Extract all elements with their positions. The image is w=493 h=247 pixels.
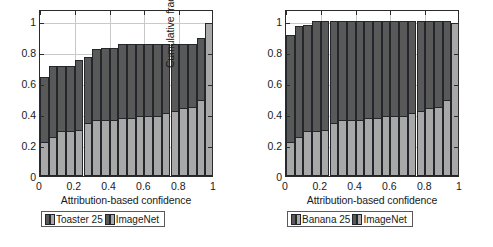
stacked-bar [425,10,434,176]
x-axis-tick-top [40,11,41,15]
stacked-bar [382,10,391,176]
x-tick-label: 1 [456,180,462,192]
y-axis-tick-right [454,23,458,24]
x-axis-tick-top [179,11,180,15]
y-tick-label: 0 [258,171,282,183]
y-tick-label: 0.6 [258,78,282,90]
y-tick-label: 0.2 [12,140,36,152]
legend: Banana 25ImageNet [287,211,413,227]
bar-segment-inner [84,123,93,176]
legend-swatch [291,214,301,225]
y-axis-tick [40,23,44,24]
y-tick-label: 0 [12,171,36,183]
x-axis-tick [40,172,41,176]
legend: Toaster 25ImageNet [41,211,165,227]
bar-segment-inner [179,108,188,176]
y-axis-label: Cumulative fraction of data [164,0,178,95]
y-axis-tick-right [454,116,458,117]
stacked-bar [399,10,408,176]
x-axis-tick-top [321,11,322,15]
stacked-bar [321,10,330,176]
bar-segment-inner [153,116,162,176]
x-tick-label: 0 [36,180,42,192]
bar-segment-inner [417,111,426,176]
x-axis-tick-top [425,11,426,15]
stacked-bar [144,10,153,176]
legend-swatch [105,214,115,225]
bar-segment-inner [205,23,213,176]
legend-entry: ImageNet [352,214,408,225]
stacked-bar [408,10,417,176]
y-axis-tick-right [454,147,458,148]
bar-segment-inner [321,130,330,176]
x-tick-label: 0.2 [312,180,327,192]
stacked-bar [338,10,347,176]
y-axis-tick-right [454,54,458,55]
x-axis-tick [356,172,357,176]
y-axis-tick-right [208,54,212,55]
stacked-bar [49,10,58,176]
y-axis-tick-right [208,147,212,148]
stacked-bar [92,10,101,176]
y-axis-tick [286,23,290,24]
y-tick-label: 1 [12,16,36,28]
y-axis-tick [286,54,290,55]
bar-segment-inner [373,118,382,176]
bar-segment-inner [110,120,119,176]
y-axis-tick [286,147,290,148]
x-tick-label: 0.6 [136,180,151,192]
bar-segment-inner [312,131,321,176]
x-tick-label-group: 00.20.40.60.81 [39,180,213,194]
plot-area [39,10,213,177]
y-tick-label: 0.2 [258,140,282,152]
x-tick-label: 0.4 [101,180,116,192]
legend-swatch-light [296,214,301,225]
stacked-bar [303,10,312,176]
y-axis-tick [40,54,44,55]
y-axis-tick [40,85,44,86]
bar-segment-inner [364,118,373,176]
bar-segment-inner [434,107,443,176]
stacked-bar [75,10,84,176]
stacked-bar [205,10,213,176]
stacked-bar [57,10,66,176]
stacked-bar [443,10,452,176]
x-axis-tick [179,172,180,176]
bar-segment-inner [303,131,312,176]
bar-segment-inner [295,137,304,176]
x-axis-tick [390,172,391,176]
stacked-bar [295,10,304,176]
bar-segment-inner [408,113,417,176]
bar-segment-inner [127,118,136,176]
legend-swatch-light [357,214,362,225]
bar-segment-inner [136,116,145,176]
stacked-bar [179,10,188,176]
legend-label: ImageNet [116,214,159,225]
bar-segment-inner [57,131,66,176]
stacked-bar [330,10,339,176]
stacked-bar [84,10,93,176]
stacked-bar [434,10,443,176]
bar-segment-inner [399,116,408,176]
stacked-bar [118,10,127,176]
x-tick-label: 0.8 [417,180,432,192]
y-tick-label: 0.6 [12,78,36,90]
x-tick-label: 0.8 [171,180,186,192]
bar-segment-inner [49,137,58,176]
y-axis-tick-right [208,85,212,86]
x-axis-tick [144,172,145,176]
legend-swatch-light [50,214,55,225]
stacked-bar [286,10,295,176]
y-tick-label: 0.8 [258,47,282,59]
y-tick-label: 0.4 [12,109,36,121]
x-axis-tick [75,172,76,176]
y-axis-tick [40,116,44,117]
y-axis-tick-right [208,23,212,24]
bar-segment-inner [443,100,452,176]
stacked-bar [153,10,162,176]
bar-segment-inner [118,118,127,176]
bar-segment-inner [197,100,206,176]
bar-segment-inner [338,120,347,176]
stacked-bar [417,10,426,176]
x-axis-tick-top [286,11,287,15]
